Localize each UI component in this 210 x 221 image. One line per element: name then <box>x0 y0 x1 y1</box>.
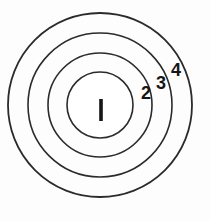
concentric-circles-diagram: 2 3 4 <box>0 0 210 221</box>
diagram-canvas: 2 3 4 <box>0 0 210 221</box>
zone-label-1-bar <box>99 99 103 121</box>
zone-label-4: 4 <box>171 60 181 80</box>
zone-label-2: 2 <box>141 83 151 103</box>
zone-label-3: 3 <box>156 73 166 93</box>
